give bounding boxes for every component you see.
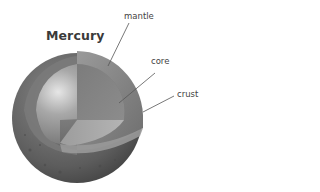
- label-core: core: [151, 56, 169, 66]
- crust-leader-line: [143, 96, 174, 112]
- mantle-leader-line: [108, 23, 129, 66]
- label-mantle: mantle: [124, 11, 154, 21]
- label-crust: crust: [177, 89, 198, 99]
